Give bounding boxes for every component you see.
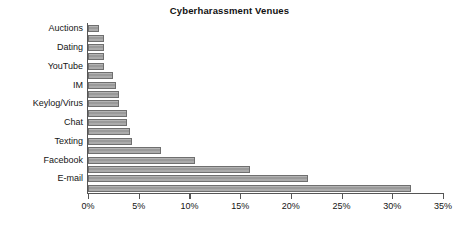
bar bbox=[88, 53, 104, 60]
x-axis-tick-label: 25% bbox=[319, 201, 365, 211]
x-axis-tick-label: 30% bbox=[369, 201, 415, 211]
bar bbox=[88, 91, 119, 98]
x-axis-tick-label: 20% bbox=[268, 201, 314, 211]
y-axis-tick-label: Auctions bbox=[0, 24, 83, 33]
x-axis-tick-mark bbox=[291, 194, 292, 199]
bar bbox=[88, 175, 308, 182]
x-axis-line bbox=[87, 193, 444, 194]
bar-row bbox=[88, 25, 443, 32]
x-axis-tick-label: 5% bbox=[116, 201, 162, 211]
y-axis-tick-label: Texting bbox=[0, 137, 83, 146]
bar bbox=[88, 72, 113, 79]
x-axis-tick-mark bbox=[342, 194, 343, 199]
bar-row bbox=[88, 35, 443, 42]
bar bbox=[88, 63, 104, 70]
x-axis-tick-mark bbox=[189, 194, 190, 199]
y-axis-tick-label: IM bbox=[0, 81, 83, 90]
y-axis-tick-label: Keylog/Virus bbox=[0, 99, 83, 108]
bar bbox=[88, 138, 132, 145]
bar bbox=[88, 82, 116, 89]
bar bbox=[88, 185, 411, 192]
y-axis-tick-label: E-mail bbox=[0, 174, 83, 183]
x-axis-tick-label: 10% bbox=[166, 201, 212, 211]
x-axis-tick-mark bbox=[139, 194, 140, 199]
y-axis-tick-label: Facebook bbox=[0, 156, 83, 165]
bar bbox=[88, 35, 104, 42]
x-axis-tick-label: 15% bbox=[217, 201, 263, 211]
chart-container: Cyberharassment Venues AuctionsDatingYou… bbox=[0, 0, 459, 235]
chart-title: Cyberharassment Venues bbox=[0, 5, 459, 16]
bar-row bbox=[88, 138, 443, 145]
bar-row bbox=[88, 157, 443, 164]
y-axis-tick-label: YouTube bbox=[0, 62, 83, 71]
bar-row bbox=[88, 63, 443, 70]
bar bbox=[88, 44, 104, 51]
bar-row bbox=[88, 91, 443, 98]
bar-row bbox=[88, 166, 443, 173]
x-axis-tick-label: 0% bbox=[65, 201, 111, 211]
y-axis-tick-label: Dating bbox=[0, 43, 83, 52]
bar-row bbox=[88, 82, 443, 89]
bar bbox=[88, 119, 127, 126]
x-axis-tick-label: 35% bbox=[420, 201, 459, 211]
x-axis-tick-mark bbox=[88, 194, 89, 199]
y-axis-tick-label: Chat bbox=[0, 118, 83, 127]
bar-row bbox=[88, 128, 443, 135]
bar-row bbox=[88, 110, 443, 117]
x-axis-tick-mark bbox=[240, 194, 241, 199]
bar-row bbox=[88, 185, 443, 192]
bar-row bbox=[88, 119, 443, 126]
bar-row bbox=[88, 44, 443, 51]
bar bbox=[88, 157, 195, 164]
bar-row bbox=[88, 72, 443, 79]
bar bbox=[88, 128, 130, 135]
x-axis-tick-mark bbox=[392, 194, 393, 199]
bar bbox=[88, 100, 119, 107]
bar-row bbox=[88, 175, 443, 182]
bar bbox=[88, 25, 99, 32]
bar-row bbox=[88, 100, 443, 107]
bar-row bbox=[88, 53, 443, 60]
bar bbox=[88, 166, 250, 173]
bar bbox=[88, 110, 127, 117]
bar bbox=[88, 147, 161, 154]
bar-row bbox=[88, 147, 443, 154]
x-axis-tick-mark bbox=[443, 194, 444, 199]
